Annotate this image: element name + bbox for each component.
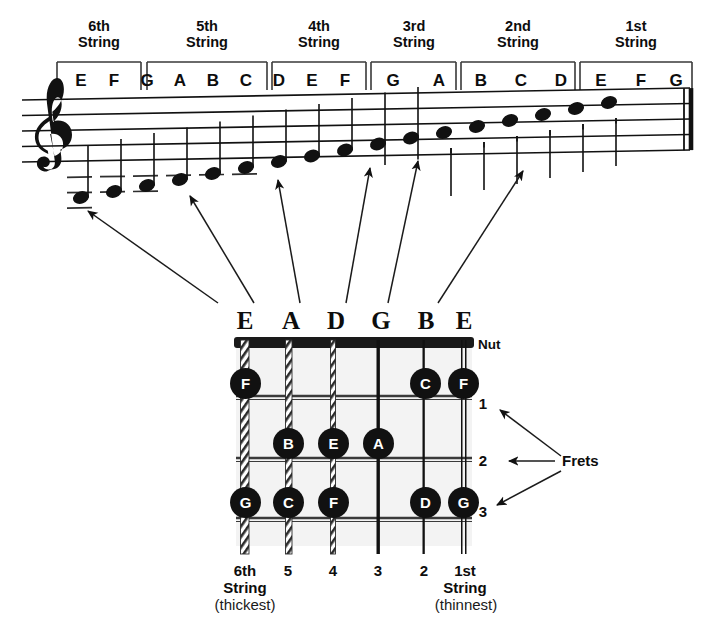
fret-dot-string5-fret2[interactable]: B — [273, 428, 304, 459]
note-letter-6: C — [231, 72, 261, 90]
bottom-label-1st-sub: (thinnest) — [420, 596, 512, 613]
string-group-heading-5th: 5th String — [167, 18, 247, 50]
note-letter-15: E — [586, 72, 616, 90]
nut-label: Nut — [478, 338, 501, 352]
note-letter-1: E — [66, 72, 96, 90]
figure-canvas — [0, 0, 719, 632]
string-group-ordinal: 4th — [279, 18, 359, 34]
ledger-lines — [67, 174, 257, 208]
fret-dot-string4-fret3[interactable]: F — [318, 487, 349, 518]
note-letter-14: D — [546, 72, 576, 90]
fret-dot-string2-fret1[interactable]: C — [410, 368, 441, 399]
note-letter-10: G — [378, 72, 408, 90]
string-group-heading-2nd: 2nd String — [478, 18, 558, 50]
guitar-notation-figure: 6th String 5th String 4th String 3rd Str… — [0, 0, 719, 632]
bottom-label-6th-sub: (thickest) — [200, 596, 290, 613]
fret-dot-label: A — [363, 436, 394, 451]
open-string-letter-2: B — [411, 308, 441, 334]
fret-dot-label: G — [448, 495, 479, 510]
open-string-letter-4: D — [321, 308, 351, 334]
fret-dot-string1-fret1[interactable]: F — [448, 368, 479, 399]
string-group-ordinal: 2nd — [478, 18, 558, 34]
fret-dot-string1-fret3[interactable]: G — [448, 487, 479, 518]
fret-dot-string6-fret1[interactable]: F — [230, 368, 261, 399]
string-group-word: String — [279, 34, 359, 50]
fret-dot-string5-fret3[interactable]: C — [273, 487, 304, 518]
string-group-word: String — [478, 34, 558, 50]
note-letter-4: A — [165, 72, 195, 90]
fret-dot-label: D — [410, 495, 441, 510]
note-stems — [88, 87, 616, 198]
music-staff — [22, 88, 690, 162]
frets-label: Frets — [562, 453, 599, 469]
string-group-heading-3rd: 3rd String — [374, 18, 454, 50]
bottom-label-6th-num: 6th — [214, 562, 276, 579]
fret-dot-string4-fret2[interactable]: E — [318, 428, 349, 459]
fret-number-1: 1 — [471, 396, 495, 412]
string-group-ordinal: 5th — [167, 18, 247, 34]
fret-number-2: 2 — [471, 453, 495, 469]
open-string-letter-5: A — [276, 308, 306, 334]
treble-clef-icon — [35, 78, 72, 172]
fret-dot-string2-fret3[interactable]: D — [410, 487, 441, 518]
fret-dot-string6-fret3[interactable]: G — [230, 487, 261, 518]
string-group-heading-1st: 1st String — [596, 18, 676, 50]
string-group-heading-6th: 6th String — [59, 18, 139, 50]
nut-bar — [234, 337, 474, 348]
note-letter-17: G — [661, 72, 691, 90]
bottom-label-4: 4 — [319, 562, 347, 579]
string-group-heading-4th: 4th String — [279, 18, 359, 50]
fret-dot-label: C — [273, 495, 304, 510]
fret-dot-label: E — [318, 436, 349, 451]
open-string-letter-1: E — [449, 308, 479, 334]
string-group-ordinal: 6th — [59, 18, 139, 34]
fret-dot-label: B — [273, 436, 304, 451]
note-letter-8: E — [297, 72, 327, 90]
fretboard-diagram — [234, 337, 474, 554]
bottom-label-1st-num: 1st — [434, 562, 496, 579]
string-group-ordinal: 1st — [596, 18, 676, 34]
bottom-label-6th-word: String — [214, 579, 276, 596]
string-group-word: String — [167, 34, 247, 50]
note-letter-13: C — [506, 72, 536, 90]
note-letter-5: B — [198, 72, 228, 90]
fret-dot-label: F — [230, 376, 261, 391]
fret-dot-label: G — [230, 495, 261, 510]
fret-dot-label: F — [448, 376, 479, 391]
fret-dot-string3-fret2[interactable]: A — [363, 428, 394, 459]
string-group-word: String — [596, 34, 676, 50]
fret-dot-label: C — [410, 376, 441, 391]
open-string-letter-3: G — [366, 308, 396, 334]
fret-dot-label: F — [318, 495, 349, 510]
string-group-word: String — [59, 34, 139, 50]
string-group-ordinal: 3rd — [374, 18, 454, 34]
string-group-word: String — [374, 34, 454, 50]
note-letter-11: A — [424, 72, 454, 90]
note-letter-16: F — [626, 72, 656, 90]
note-letter-7: D — [264, 72, 294, 90]
note-letter-12: B — [466, 72, 496, 90]
bottom-label-5: 5 — [274, 562, 302, 579]
bottom-label-3: 3 — [364, 562, 392, 579]
frets-leader-arrows — [497, 410, 561, 505]
note-letter-3: G — [132, 72, 162, 90]
bottom-label-1st-word: String — [434, 579, 496, 596]
note-letter-9: F — [330, 72, 360, 90]
note-letter-2: F — [99, 72, 129, 90]
open-string-letter-6: E — [230, 308, 260, 334]
